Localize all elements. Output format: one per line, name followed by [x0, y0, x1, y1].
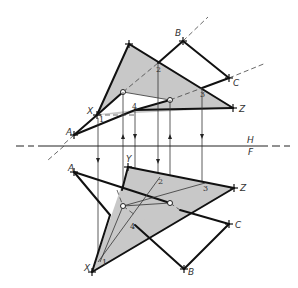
top-label-z: Z	[238, 104, 246, 114]
top-extension-c	[229, 63, 266, 78]
front-num-3: 3	[203, 184, 208, 193]
front-label-x: X	[83, 263, 91, 273]
top-extension-b	[183, 17, 208, 41]
top-label-x: X	[86, 106, 94, 116]
top-num-1: 1	[99, 115, 104, 124]
top-label-a: A	[65, 127, 72, 137]
top-edge-a-x	[74, 115, 97, 135]
front-label-b: B	[188, 267, 194, 277]
fold-label-h: H	[247, 135, 254, 145]
top-edge-2-b	[158, 41, 183, 63]
front-num-4: 4	[130, 222, 135, 231]
intersection-diagram: A B C X Z 1 2 3 4 H F	[0, 0, 298, 288]
front-num-2: 2	[158, 177, 163, 186]
top-num-2: 2	[156, 65, 161, 74]
front-view: A B C X Y Z 1 2 3 4	[67, 154, 247, 277]
fold-line: H F	[16, 135, 290, 160]
front-label-z: Z	[239, 183, 247, 193]
top-label-c: C	[233, 78, 240, 88]
top-view: A B C X Z 1 2 3 4	[64, 17, 266, 144]
front-num-1: 1	[102, 258, 107, 267]
top-edge-3-c	[202, 78, 229, 88]
front-label-a: A	[67, 163, 74, 173]
front-pierce-point-2	[168, 201, 173, 206]
front-label-c: C	[235, 220, 242, 230]
front-pierce-point-1	[121, 204, 126, 209]
top-edge-b-c	[183, 41, 229, 78]
top-num-4: 4	[132, 102, 137, 111]
front-edge-c-b	[184, 224, 229, 269]
front-label-y: Y	[126, 154, 133, 164]
fold-label-f: F	[248, 147, 254, 157]
top-num-3: 3	[200, 90, 205, 99]
top-label-b: B	[175, 28, 181, 38]
front-edge-to-c	[180, 210, 229, 224]
